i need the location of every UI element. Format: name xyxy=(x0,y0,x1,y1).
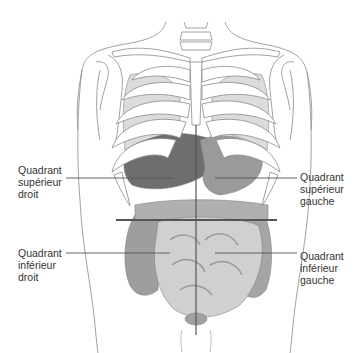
label-line: supérieur xyxy=(300,183,344,195)
label-line: Quadrant xyxy=(18,247,62,259)
label-line: droit xyxy=(18,271,62,283)
label-upper-right-quadrant: Quadrant supérieur droit xyxy=(18,164,62,200)
label-line: Quadrant xyxy=(300,250,344,262)
label-line: supérieur xyxy=(18,176,62,188)
label-line: inférieur xyxy=(18,259,62,271)
label-line: Quadrant xyxy=(300,171,344,183)
small-intestine xyxy=(154,217,262,317)
label-line: Quadrant xyxy=(18,164,62,176)
label-line: gauche xyxy=(300,195,344,207)
label-line: inférieur xyxy=(300,262,344,274)
label-upper-left-quadrant: Quadrant supérieur gauche xyxy=(300,171,344,207)
label-line: gauche xyxy=(300,274,344,286)
label-lower-left-quadrant: Quadrant inférieur gauche xyxy=(300,250,344,286)
label-lower-right-quadrant: Quadrant inférieur droit xyxy=(18,247,62,283)
label-line: droit xyxy=(18,188,62,200)
